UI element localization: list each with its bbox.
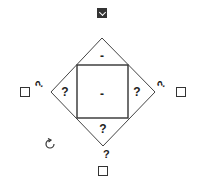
left-triangle-label: ? (59, 86, 71, 98)
right-checkbox[interactable] (176, 87, 186, 97)
bottom-hint: ? (103, 149, 110, 160)
diagram-stage: - - ? ? ? ? ? ? (0, 0, 197, 194)
top-checkbox[interactable] (97, 8, 107, 18)
left-checkbox[interactable] (20, 87, 30, 97)
top-triangle-label: - (96, 50, 108, 62)
bottom-checkbox[interactable] (98, 166, 108, 176)
bottom-triangle-label: ? (97, 123, 109, 135)
right-triangle-label: ? (131, 86, 143, 98)
center-square-label: - (96, 88, 108, 100)
rotate-icon[interactable] (44, 138, 56, 150)
